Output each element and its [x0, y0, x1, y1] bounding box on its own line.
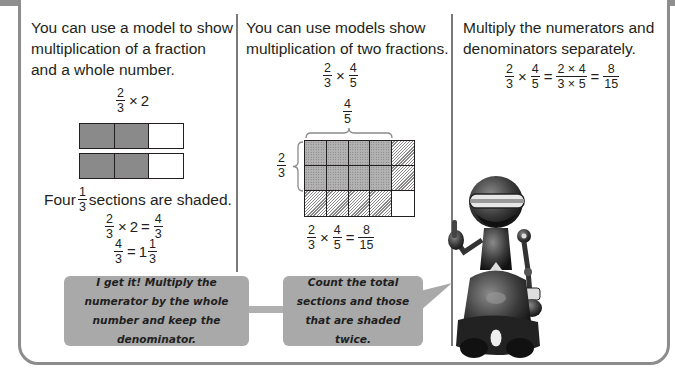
col2-expression: 2 3 × 4 5 — [322, 62, 359, 89]
col1-equation-1: 2 3 × 2 = 4 3 — [104, 213, 164, 240]
grid-cell-shaded-twice — [349, 141, 371, 166]
fraction: 2 3 — [307, 224, 316, 251]
fraction-bar-1 — [79, 123, 184, 149]
fraction-bar-2 — [79, 153, 184, 179]
fraction: 2 3 — [105, 213, 114, 240]
fraction: 1 3 — [148, 238, 157, 265]
fraction: 8 15 — [358, 224, 374, 251]
grid-cell-shaded-twice — [370, 166, 392, 191]
top-brace-icon — [305, 127, 393, 139]
grid-top-label: 4 5 — [342, 98, 353, 125]
fraction: 4 5 — [349, 62, 358, 89]
fraction: 4 3 — [114, 238, 123, 265]
speech-bubble-right: Count the total sections and those that … — [283, 276, 423, 346]
fraction: 2 × 4 3 × 5 — [556, 63, 586, 90]
bubble-connector — [248, 306, 284, 313]
col2-result-equation: 2 3 × 4 5 = 8 15 — [306, 224, 375, 251]
col3-equation: 2 3 × 4 5 = 2 × 4 3 × 5 = 8 15 — [504, 63, 620, 90]
column-divider-1 — [236, 14, 238, 272]
bar-segment-shaded — [80, 154, 115, 178]
grid-cell-hatched — [392, 141, 414, 166]
bar-segment-plain — [149, 124, 183, 148]
grid-cell-hatched — [370, 191, 392, 216]
grid-cell-shaded-twice — [327, 166, 349, 191]
grid-cell-shaded-twice — [305, 166, 327, 191]
area-model-grid — [304, 140, 415, 217]
speech-bubble-left: I get it! Multiply the numerator by the … — [64, 276, 249, 346]
grid-side-label: 2 3 — [276, 152, 287, 179]
fraction: 2 3 — [323, 62, 332, 89]
col1-expression: 2 3 × 2 — [115, 87, 149, 114]
grid-cell-hatched — [392, 166, 414, 191]
col1-equation-2: 4 3 = 1 1 3 — [113, 238, 158, 265]
bar-segment-shaded — [115, 124, 150, 148]
grid-cell-hatched — [305, 191, 327, 216]
bar-segment-shaded — [115, 154, 150, 178]
fraction: 4 5 — [333, 224, 342, 251]
fraction: 1 3 — [78, 186, 87, 213]
grid-cell-shaded-twice — [327, 141, 349, 166]
fraction: 4 5 — [343, 98, 352, 125]
robot-mascot-icon — [440, 170, 570, 362]
grid-cell-unshaded — [392, 191, 414, 216]
grid-cell-shaded-twice — [349, 166, 371, 191]
fraction: 4 3 — [154, 213, 163, 240]
col1-caption: Four 1 3 sections are shaded. — [44, 186, 232, 213]
col2-intro-text: You can use models show multiplication o… — [246, 17, 451, 59]
left-brace-icon — [292, 141, 304, 192]
grid-cell-hatched — [349, 191, 371, 216]
col1-intro-text: You can use a model to show multiplicati… — [31, 17, 236, 80]
grid-cell-shaded-twice — [370, 141, 392, 166]
fraction: 2 3 — [116, 87, 125, 114]
fraction: 2 3 — [277, 152, 286, 179]
fraction: 8 15 — [603, 63, 619, 90]
fraction: 4 5 — [531, 63, 540, 90]
col3-intro-text: Multiply the numerators and denominators… — [463, 17, 663, 59]
bar-segment-shaded — [80, 124, 115, 148]
grid-cell-shaded-twice — [305, 141, 327, 166]
bar-segment-plain — [149, 154, 183, 178]
grid-cell-hatched — [327, 191, 349, 216]
fraction: 2 3 — [505, 63, 514, 90]
